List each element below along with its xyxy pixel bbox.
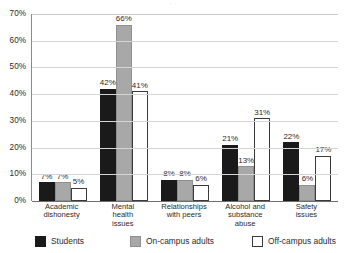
bar-offcampus[interactable] xyxy=(254,118,270,201)
grouped-bar-chart: · · 0%10%20%30%40%50%60%70% 7%7%5%42%66%… xyxy=(0,0,346,253)
y-tick-label: 60% xyxy=(10,37,26,45)
gridline xyxy=(32,41,338,42)
y-tick-label: 20% xyxy=(10,143,26,151)
chart-legend: StudentsOn-campus adultsOff-campus adult… xyxy=(31,234,341,248)
legend-label: On-campus adults xyxy=(146,237,214,246)
bar-group-bars: 21%13%31% xyxy=(216,14,277,201)
bar-slot: 7% xyxy=(39,14,55,201)
bar-value-label: 21% xyxy=(222,135,238,143)
bar-value-label: 13% xyxy=(238,157,254,165)
x-axis-category-labels: AcademicdishonestyMentalhealthissuesRela… xyxy=(31,203,337,233)
bar-offcampus[interactable] xyxy=(193,185,209,201)
y-tick-label: 30% xyxy=(10,117,26,125)
bar-slot: 6% xyxy=(299,14,315,201)
bar-oncampus[interactable] xyxy=(238,166,254,201)
bar-students[interactable] xyxy=(161,180,177,201)
y-tick-label: 50% xyxy=(10,63,26,71)
y-tick-label: 10% xyxy=(10,170,26,178)
legend-swatch-oncampus xyxy=(130,236,141,247)
y-tick-label: 0% xyxy=(14,197,26,205)
bar-value-label: 22% xyxy=(283,133,299,141)
bar-slot: 41% xyxy=(132,14,148,201)
bar-group: 7%7%5% xyxy=(32,14,93,201)
bar-slot: 31% xyxy=(254,14,270,201)
bar-value-label: 31% xyxy=(254,109,270,117)
x-category-label-line: issues xyxy=(277,211,336,219)
bar-group-bars: 8%8%6% xyxy=(154,14,215,201)
bar-value-label: 42% xyxy=(100,79,116,87)
x-category-label-line: dishonesty xyxy=(32,211,91,219)
bar-group: 21%13%31% xyxy=(216,14,277,201)
bar-value-label: 66% xyxy=(116,15,132,23)
legend-label: Students xyxy=(51,237,84,246)
legend-item[interactable]: On-campus adults xyxy=(130,236,214,247)
legend-label: Off-campus adults xyxy=(268,237,336,246)
bar-students[interactable] xyxy=(283,142,299,201)
gridline xyxy=(32,121,338,122)
x-category-label: Academicdishonesty xyxy=(31,203,92,233)
bar-slot: 6% xyxy=(193,14,209,201)
bar-groups: 7%7%5%42%66%41%8%8%6%21%13%31%22%6%17% xyxy=(32,14,338,201)
bar-students[interactable] xyxy=(39,182,55,201)
plot-area: 7%7%5%42%66%41%8%8%6%21%13%31%22%6%17% xyxy=(31,14,338,201)
bar-group-bars: 22%6%17% xyxy=(277,14,338,201)
bar-group-bars: 42%66%41% xyxy=(93,14,154,201)
bar-slot: 5% xyxy=(71,14,87,201)
bar-slot: 42% xyxy=(100,14,116,201)
x-category-label-line: with peers xyxy=(154,211,213,219)
gridline xyxy=(32,67,338,68)
x-category-label: Relationshipswith peers xyxy=(153,203,214,233)
y-tick-label: 40% xyxy=(10,90,26,98)
bar-slot: 7% xyxy=(55,14,71,201)
bar-oncampus[interactable] xyxy=(55,182,71,201)
bar-offcampus[interactable] xyxy=(315,156,331,201)
x-category-label: Alcohol andsubstanceabuse xyxy=(215,203,276,233)
clipped-title-strip: · · xyxy=(0,0,346,7)
bar-value-label: 6% xyxy=(302,175,314,183)
bar-group: 8%8%6% xyxy=(154,14,215,201)
x-category-label-line: issues xyxy=(93,220,152,228)
legend-swatch-students xyxy=(35,236,46,247)
bar-value-label: 6% xyxy=(195,175,207,183)
bar-group-bars: 7%7%5% xyxy=(32,14,93,201)
legend-swatch-offcampus xyxy=(252,236,263,247)
bar-oncampus[interactable] xyxy=(299,185,315,201)
legend-item[interactable]: Students xyxy=(35,236,84,247)
x-category-label: Safetyissues xyxy=(276,203,337,233)
x-category-label-line: abuse xyxy=(216,220,275,228)
bar-students[interactable] xyxy=(222,145,238,201)
legend-item[interactable]: Off-campus adults xyxy=(252,236,336,247)
y-axis-tick-labels: 0%10%20%30%40%50%60%70% xyxy=(0,8,29,201)
bar-students[interactable] xyxy=(100,89,116,201)
bar-group: 42%66%41% xyxy=(93,14,154,201)
bar-slot: 22% xyxy=(283,14,299,201)
gridline xyxy=(32,148,338,149)
bar-group: 22%6%17% xyxy=(277,14,338,201)
bar-slot: 21% xyxy=(222,14,238,201)
bar-slot: 13% xyxy=(238,14,254,201)
x-category-label: Mentalhealthissues xyxy=(92,203,153,233)
gridline xyxy=(32,94,338,95)
bar-slot: 17% xyxy=(315,14,331,201)
y-tick-label: 70% xyxy=(10,10,26,18)
bar-oncampus[interactable] xyxy=(177,180,193,201)
gridline xyxy=(32,174,338,175)
bar-offcampus[interactable] xyxy=(71,188,87,201)
bar-slot: 66% xyxy=(116,14,132,201)
bar-slot: 8% xyxy=(161,14,177,201)
bar-offcampus[interactable] xyxy=(132,91,148,201)
bar-value-label: 41% xyxy=(132,82,148,90)
gridline xyxy=(32,14,338,15)
bar-slot: 8% xyxy=(177,14,193,201)
bar-value-label: 5% xyxy=(73,178,85,186)
